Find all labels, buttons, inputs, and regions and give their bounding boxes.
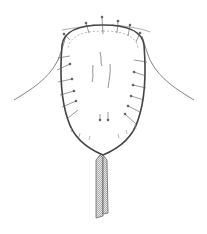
illustration xyxy=(0,0,207,234)
garment-outline-right xyxy=(142,36,194,100)
center-mark xyxy=(108,64,110,88)
hanging-tape xyxy=(96,155,108,218)
sewing-illustration xyxy=(0,0,207,234)
facing-inner xyxy=(103,31,138,48)
center-mark xyxy=(100,52,102,66)
garment-outline-left xyxy=(14,36,66,100)
seam-ticks xyxy=(71,125,136,140)
center-mark xyxy=(92,65,93,82)
facing-inner-left xyxy=(68,31,103,48)
